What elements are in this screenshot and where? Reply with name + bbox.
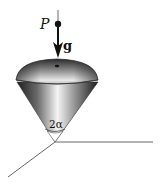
point-p-label: P — [39, 16, 50, 32]
diagram-canvas: P g 2α — [0, 0, 160, 185]
gravity-label: g — [63, 38, 72, 53]
cap-shading — [16, 59, 98, 84]
angle-label: 2α — [49, 118, 63, 130]
gravity-arrow-group — [53, 10, 63, 58]
y-axis-line — [8, 142, 55, 177]
ground-axes — [8, 142, 153, 177]
center-mark — [55, 65, 59, 68]
